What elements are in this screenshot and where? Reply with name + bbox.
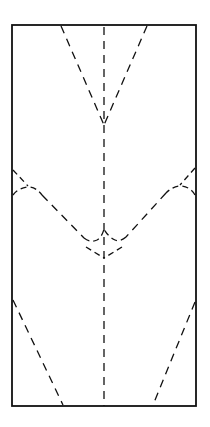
left-side-creases <box>13 170 104 241</box>
crease-pattern-diagram <box>0 0 210 427</box>
right-side-creases <box>104 168 195 241</box>
